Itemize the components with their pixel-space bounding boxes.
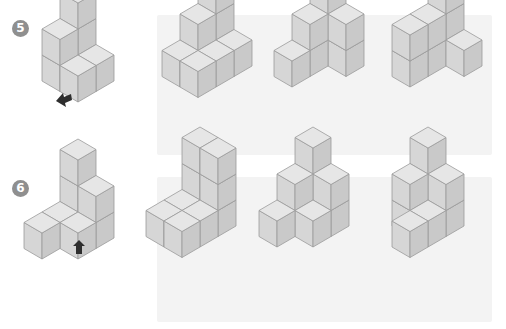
answer-option-3[interactable] xyxy=(0,0,506,329)
